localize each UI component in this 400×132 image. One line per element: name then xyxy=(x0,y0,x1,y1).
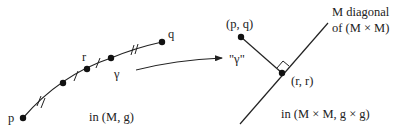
label-gamma: γ xyxy=(113,67,120,81)
curve-gamma xyxy=(23,42,162,118)
label-space-right: in (M × M, g × g) xyxy=(281,107,370,121)
diagram: p r γ q in (M, g) "γ" (p, q) (r, r) M di… xyxy=(0,0,400,132)
label-diagonal-line2: of (M × M) xyxy=(332,21,389,35)
mapping-arrow xyxy=(136,58,222,70)
curve-points xyxy=(20,39,165,121)
point-pq xyxy=(238,34,244,40)
point-r xyxy=(84,66,90,72)
label-diagonal-line1: M diagonal xyxy=(332,5,390,19)
point-rr xyxy=(279,70,285,76)
label-r: r xyxy=(82,50,87,64)
right-angle-marker xyxy=(277,61,289,68)
diagram-canvas: p r γ q in (M, g) "γ" (p, q) (r, r) M di… xyxy=(0,0,400,132)
label-p: p xyxy=(8,111,14,125)
label-rr: (r, r) xyxy=(291,74,313,88)
segment-pq-to-rr xyxy=(241,37,282,73)
label-gamma-quoted: "γ" xyxy=(229,52,245,66)
point-unlabeled xyxy=(60,80,66,86)
label-pq: (p, q) xyxy=(226,17,253,31)
label-q: q xyxy=(168,27,175,41)
label-space-left: in (M, g) xyxy=(89,110,134,124)
point-p xyxy=(20,115,26,121)
point-gamma xyxy=(108,55,114,61)
point-q xyxy=(159,39,165,45)
